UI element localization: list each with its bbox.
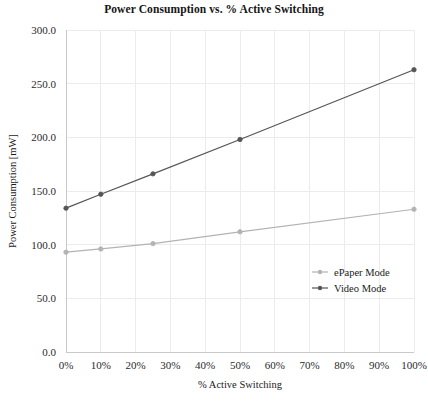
x-axis-title: % Active Switching: [198, 379, 283, 390]
x-tick-label: 100%: [401, 359, 427, 371]
chart-container: Power Consumption vs. % Active Switching…: [0, 0, 428, 403]
x-tick-label: 50%: [230, 359, 250, 371]
y-tick-label: 100.0: [31, 239, 56, 251]
x-tick-label: 20%: [126, 359, 146, 371]
data-point-marker: [99, 247, 103, 251]
x-tick-label: 0%: [59, 359, 74, 371]
line-chart-plot: 0.050.0100.0150.0200.0250.0300.0 0%10%20…: [0, 0, 428, 403]
y-tick-label: 250.0: [31, 78, 56, 90]
x-tick-label: 60%: [265, 359, 285, 371]
data-point-marker: [64, 206, 68, 210]
legend-item-label: ePaper Mode: [334, 267, 390, 278]
data-point-marker: [238, 230, 242, 234]
data-point-marker: [151, 172, 155, 176]
x-tick-label: 80%: [334, 359, 354, 371]
x-tick-label: 40%: [195, 359, 215, 371]
chart-legend: ePaper ModeVideo Mode: [312, 267, 390, 294]
data-point-marker: [412, 207, 416, 211]
y-tick-label: 300.0: [31, 24, 56, 36]
y-tick-label: 50.0: [37, 292, 57, 304]
y-tick-label: 200.0: [31, 131, 56, 143]
x-tick-label: 90%: [369, 359, 389, 371]
data-point-marker: [151, 241, 155, 245]
legend-swatch-marker: [318, 286, 322, 290]
x-tick-label: 30%: [160, 359, 180, 371]
data-point-marker: [412, 68, 416, 72]
x-tick-label: 70%: [300, 359, 320, 371]
data-point-marker: [238, 137, 242, 141]
y-tick-label: 150.0: [31, 185, 56, 197]
y-axis-title: Power Consumption [mW]: [7, 134, 18, 248]
legend-swatch-marker: [318, 270, 322, 274]
x-axis-tick-labels: 0%10%20%30%40%50%60%70%80%90%100%: [59, 359, 427, 371]
legend-item-label: Video Mode: [334, 283, 386, 294]
data-point-marker: [99, 192, 103, 196]
x-tick-label: 10%: [91, 359, 111, 371]
data-point-marker: [64, 250, 68, 254]
y-tick-label: 0.0: [42, 346, 56, 358]
y-axis-tick-labels: 0.050.0100.0150.0200.0250.0300.0: [31, 24, 56, 358]
